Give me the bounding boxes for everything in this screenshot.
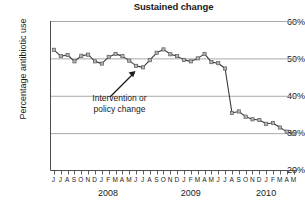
x-tick-label: O: [77, 176, 84, 183]
data-point: [176, 55, 179, 58]
x-axis-year-labels: 200820092010: [50, 188, 297, 202]
x-tick-label: D: [91, 176, 98, 183]
x-tick-label: N: [84, 176, 91, 183]
x-tick-label: J: [263, 176, 270, 183]
x-tick-label: N: [167, 176, 174, 183]
data-point: [148, 59, 151, 62]
x-tick-label: M: [125, 176, 132, 183]
x-tick-label: A: [64, 176, 71, 183]
data-point: [141, 66, 144, 69]
x-tick-label: N: [249, 176, 256, 183]
data-point: [189, 60, 192, 63]
data-markers: [52, 48, 295, 136]
x-tick-label: D: [256, 176, 263, 183]
data-point: [134, 64, 137, 67]
x-tick-label: A: [228, 176, 235, 183]
x-tick-label: A: [283, 176, 290, 183]
chart-figure: Sustained change Percentage antibiotic u…: [0, 0, 305, 208]
data-point: [155, 51, 158, 54]
data-point: [100, 62, 103, 65]
data-point: [230, 111, 233, 114]
x-tick-label: M: [290, 176, 297, 183]
data-point: [203, 52, 206, 55]
x-tick-label: J: [57, 176, 64, 183]
intervention-annotation: Intervention or policy change: [72, 93, 167, 114]
annotation-line-2: policy change: [72, 104, 167, 115]
x-tick-label: J: [180, 176, 187, 183]
annotation-line-1: Intervention or: [72, 93, 167, 104]
data-point: [128, 59, 131, 62]
data-point: [59, 55, 62, 58]
data-point: [285, 130, 288, 133]
x-tick-label: A: [146, 176, 153, 183]
x-axis-year-label: 2008: [98, 188, 118, 198]
x-tick-label: O: [160, 176, 167, 183]
data-point: [66, 53, 69, 56]
data-point: [224, 67, 227, 70]
x-tick-label: M: [112, 176, 119, 183]
x-axis-year-label: 2010: [256, 188, 276, 198]
x-tick-label: F: [105, 176, 112, 183]
data-point: [169, 53, 172, 56]
x-tick-label: F: [187, 176, 194, 183]
x-tick-label: M: [276, 176, 283, 183]
data-point: [278, 126, 281, 129]
x-tick-label: S: [235, 176, 242, 183]
data-point: [52, 48, 55, 51]
data-point: [196, 57, 199, 60]
data-point: [121, 55, 124, 58]
data-point: [73, 60, 76, 63]
x-tick-marks: [55, 171, 295, 175]
x-tick-label: J: [221, 176, 228, 183]
data-point: [271, 121, 274, 124]
x-tick-label: J: [98, 176, 105, 183]
data-point: [265, 122, 268, 125]
x-tick-label: J: [139, 176, 146, 183]
data-point: [182, 58, 185, 61]
data-point: [87, 53, 90, 56]
data-point: [244, 115, 247, 118]
data-point: [237, 110, 240, 113]
x-tick-label: F: [270, 176, 277, 183]
x-tick-label: M: [208, 176, 215, 183]
x-tick-label: S: [71, 176, 78, 183]
data-point: [217, 62, 220, 65]
data-point: [210, 61, 213, 64]
gridlines: [51, 22, 298, 134]
data-point: [292, 132, 295, 135]
data-point: [258, 118, 261, 121]
x-tick-label: J: [215, 176, 222, 183]
x-axis-month-labels: JJASONDJFMAMJJASONDJFMAMJJASONDJFMAM: [50, 176, 297, 183]
data-point: [107, 55, 110, 58]
x-axis-year-label: 2009: [181, 188, 201, 198]
data-point: [114, 52, 117, 55]
x-tick-label: M: [194, 176, 201, 183]
data-point: [80, 54, 83, 57]
x-tick-label: J: [50, 176, 57, 183]
x-tick-label: O: [242, 176, 249, 183]
x-tick-label: D: [173, 176, 180, 183]
x-tick-label: A: [119, 176, 126, 183]
x-tick-label: A: [201, 176, 208, 183]
x-tick-label: S: [153, 176, 160, 183]
data-point: [93, 60, 96, 63]
data-point: [162, 48, 165, 51]
x-tick-label: J: [132, 176, 139, 183]
data-point: [251, 118, 254, 121]
